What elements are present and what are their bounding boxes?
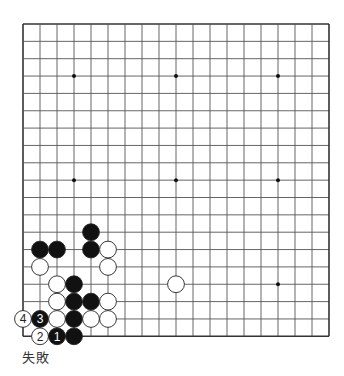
star-point [72, 178, 76, 182]
star-point [276, 178, 280, 182]
white-stone [100, 311, 117, 328]
white-stone [100, 259, 117, 276]
white-stone [100, 293, 117, 310]
black-stone [49, 241, 66, 258]
white-stone [168, 276, 185, 293]
white-stone [100, 241, 117, 258]
star-point [276, 74, 280, 78]
diagram-caption: 失敗 [22, 347, 50, 366]
white-stone [49, 293, 66, 310]
move-number: 3 [37, 312, 44, 326]
white-stone: 2 [32, 328, 49, 345]
star-point [174, 178, 178, 182]
go-board: 4321 [0, 0, 344, 376]
black-stone [32, 241, 49, 258]
move-number: 4 [20, 312, 27, 326]
star-point [174, 74, 178, 78]
black-stone: 3 [32, 311, 49, 328]
star-point [72, 74, 76, 78]
white-stone [49, 311, 66, 328]
star-point [276, 282, 280, 286]
move-number: 2 [37, 330, 44, 344]
move-number: 1 [54, 330, 61, 344]
black-stone: 1 [49, 328, 66, 345]
white-stone: 4 [15, 311, 32, 328]
white-stone [83, 311, 100, 328]
black-stone [66, 293, 83, 310]
black-stone [66, 311, 83, 328]
black-stone [83, 241, 100, 258]
black-stone [83, 224, 100, 241]
white-stone [49, 276, 66, 293]
white-stone [32, 259, 49, 276]
black-stone [83, 293, 100, 310]
black-stone [66, 276, 83, 293]
black-stone [66, 328, 83, 345]
